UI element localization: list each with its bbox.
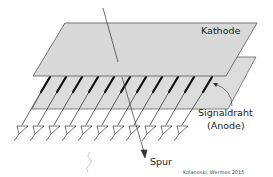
credit-label: Kolanoski, Wermes 2015 <box>183 170 244 175</box>
squiggle-decoration <box>87 152 92 172</box>
anode-label: (Anode) <box>207 121 245 131</box>
cathode-label: Kathode <box>201 26 240 36</box>
amplifier-outputs <box>14 134 179 141</box>
signal-wire-label: Signaldraht <box>198 108 253 118</box>
track-arrow-icon <box>141 150 147 158</box>
track-label: Spur <box>150 157 172 167</box>
amplifier-row <box>17 126 188 134</box>
